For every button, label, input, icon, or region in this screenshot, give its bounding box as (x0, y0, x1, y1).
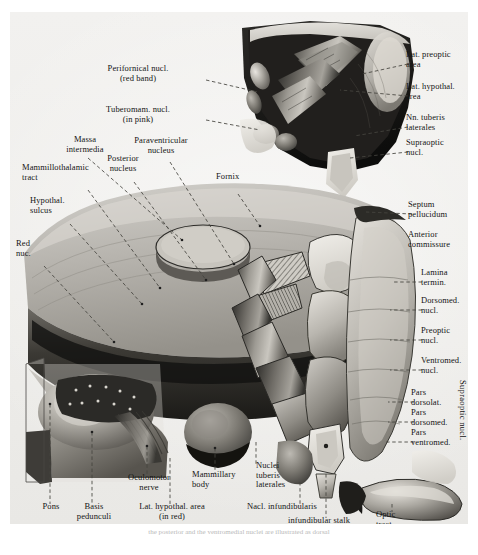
label-nn-tuberis-laterales: Nn. tuberis laterales (406, 113, 468, 132)
anatomy-artwork (10, 12, 468, 524)
label-hypothal-sulcus: Hypothal. sulcus (30, 196, 100, 215)
label-optic-tract: Optic tract (376, 510, 416, 524)
label-basis-pedunculi: Basis pedunculi (66, 502, 122, 521)
label-pars-dorsomed: Pars dorsomed. (411, 408, 465, 427)
label-mammillary-body: Mammillary body (192, 470, 258, 489)
label-red-nucl: Red nuc. (16, 239, 62, 258)
label-nucl-infundibularis: Nacl. infundibularis (247, 502, 347, 512)
label-lat-hypothal-area: Lat. hypothal. area (406, 82, 468, 101)
label-dorsomed-nucl: Dorsomed. nucl. (421, 296, 468, 315)
label-massa-intermedia: Massa intermedia (50, 135, 120, 154)
label-septum-pellucidum: Septum pellucidum (408, 200, 468, 219)
label-fornix: Fornix (216, 172, 266, 182)
label-lat-preoptic-area: Lat. preoptic area (406, 50, 468, 69)
label-pars-dorsolat: Pars dorsolat. (411, 388, 463, 407)
label-mammillothalamic-tract: Mammillothalamic tract (22, 163, 122, 182)
label-perifornical-nucl: Perifornical nucl. (red band) (88, 64, 188, 83)
label-tuberomam-nucl: Tuberomam. nucl. (in pink) (88, 105, 188, 124)
label-nuclei-tuberis-laterales: Nuclei tuberis laterales (256, 461, 312, 490)
label-supraoptic-nucl: Supraoptic nucl. (406, 138, 468, 157)
label-oculomotor-nerve: Oculomotor nerve (116, 473, 182, 492)
illustration-plate: Perifornical nucl. (red band) Tuberomam.… (10, 12, 468, 524)
inset-coronal-block (240, 21, 414, 198)
label-ventromed-nucl: Ventromed. nucl. (421, 356, 468, 375)
label-infundibular-stalk: infundibular stalk (288, 516, 378, 524)
label-supraoptic-nucl-vertical: Supraoptic nucl. (458, 380, 468, 441)
figure-caption: the posterior and the ventromedial nucle… (10, 528, 468, 537)
label-lamina-termin: Lamina termin. (421, 268, 468, 287)
label-lat-hypothal-area-red: Lat. hypothal. area (in red) (120, 502, 224, 521)
label-anterior-commissure: Anterior commissure (408, 230, 468, 249)
label-preoptic-nucl: Preoptic nucl. (421, 326, 468, 345)
label-pars-ventromed: Pars ventromed. (411, 428, 465, 447)
